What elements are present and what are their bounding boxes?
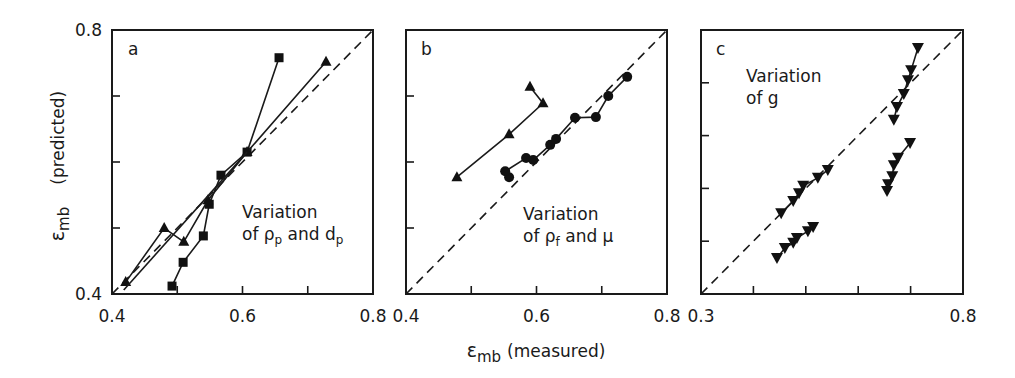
series-line [124, 152, 247, 290]
x-axis-label: εmb(measured) [467, 339, 606, 366]
x-tick-label: 0.8 [359, 306, 386, 326]
reference-line-y-equals-x [701, 30, 963, 294]
series-triangles [451, 81, 548, 181]
square-marker [168, 282, 177, 291]
triangle-up-marker [524, 81, 535, 91]
annotation-line-1: Variation [746, 66, 821, 86]
triangle-down-marker [912, 43, 924, 54]
series-line [124, 152, 247, 290]
svg-text:εmb(measured): εmb(measured) [467, 339, 606, 366]
square-marker [199, 231, 208, 240]
triangle-down-marker [905, 65, 917, 76]
x-axis-label-sub: mb [477, 348, 501, 366]
panel-label: a [128, 39, 138, 59]
series-group-3 [881, 138, 916, 197]
triangle-up-marker [159, 222, 170, 232]
series-group-1 [771, 222, 819, 264]
y-axis-label-main: ε [46, 231, 68, 241]
triangle-down-marker [891, 102, 903, 113]
y-tick-label: 0.8 [75, 20, 102, 40]
x-tick-label: 0.4 [392, 306, 419, 326]
x-axis-label-rest: (measured) [507, 341, 605, 361]
x-tick-label: 0.4 [98, 306, 125, 326]
series-squares [168, 53, 284, 290]
triangle-up-marker [451, 171, 462, 181]
triangle-down-marker [812, 173, 824, 184]
x-tick-label: 0.6 [229, 306, 256, 326]
y-axis-label-sub: mb [55, 207, 73, 231]
x-tick-label: 0.8 [653, 306, 680, 326]
annotation-line-2: of ρp and dp [242, 224, 343, 247]
circle-marker [528, 155, 538, 165]
triangle-down-marker [898, 89, 910, 100]
panels: 0.40.60.80.40.8aVariationof ρp and dp0.4… [75, 20, 977, 326]
panel-b: 0.40.60.8bVariationof ρf and μ [392, 30, 680, 326]
series-circles [500, 72, 632, 182]
triangle-down-marker [771, 253, 783, 264]
figure: 0.40.60.80.40.8aVariationof ρp and dp0.4… [0, 0, 1015, 378]
circle-marker [570, 113, 580, 123]
triangle-down-marker [888, 115, 900, 126]
panel-label: c [716, 39, 725, 59]
annotation-line-1: Variation [523, 204, 598, 224]
series-group-4 [888, 43, 924, 126]
square-marker [275, 53, 284, 62]
y-axis-label: εmb(predicted) [46, 91, 73, 241]
series-line [172, 58, 279, 286]
circle-marker [591, 112, 601, 122]
panel-c: 0.30.8cVariationof g [687, 30, 976, 326]
annotation-line-2: of g [746, 88, 779, 108]
x-tick-label: 0.6 [523, 306, 550, 326]
panel-a: 0.40.60.80.40.8aVariationof ρp and dp [75, 20, 387, 326]
svg-text:εmb(predicted): εmb(predicted) [46, 91, 73, 241]
y-tick-label: 0.4 [75, 284, 102, 304]
series-group-2 [775, 165, 834, 219]
triangle-up-marker [178, 236, 189, 246]
annotation-line-1: Variation [242, 202, 317, 222]
triangle-up-marker [321, 56, 332, 66]
annotation-line-2: of ρf and μ [523, 226, 614, 249]
panel-label: b [421, 39, 432, 59]
x-tick-label: 0.8 [949, 306, 976, 326]
x-axis-label-main: ε [467, 339, 477, 361]
y-axis-label-rest: (predicted) [48, 91, 68, 185]
x-tick-label: 0.3 [687, 306, 714, 326]
circle-marker [500, 166, 510, 176]
circle-marker [551, 134, 561, 144]
circle-marker [603, 91, 613, 101]
circle-marker [622, 72, 632, 82]
reference-line-y-equals-x [112, 30, 373, 294]
square-marker [179, 258, 188, 267]
